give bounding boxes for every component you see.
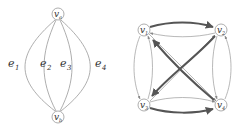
- svg-text:2: 2: [221, 30, 225, 36]
- edge-label-e3: e: [60, 57, 67, 70]
- svg-text:3: 3: [67, 64, 72, 72]
- svg-text:2: 2: [46, 64, 52, 72]
- right-graph: v 1 v 2 v 3 v 4: [134, 23, 231, 113]
- heavy-edge-v3-v4: [150, 108, 213, 113]
- edge-label-e1: e: [8, 57, 15, 70]
- heavy-edge-v1-v2: [150, 23, 213, 28]
- diagram-canvas: v a v b e 1 e 2 e 3 e 4 v: [0, 0, 238, 127]
- heavy-edge-v2-v3: [152, 36, 215, 96]
- heavy-edge-v4-v1: [153, 40, 214, 100]
- left-graph: v a v b e 1 e 2 e 3 e 4: [8, 8, 106, 123]
- edge-label-e2: e: [40, 57, 47, 70]
- edge-label-e4: e: [95, 57, 102, 70]
- node-v1: v 1: [138, 24, 150, 36]
- node-va: v a: [52, 8, 64, 20]
- node-v4: v 4: [215, 99, 227, 111]
- node-v3: v 3: [138, 99, 150, 111]
- svg-text:3: 3: [145, 105, 148, 111]
- svg-text:4: 4: [101, 64, 106, 72]
- node-v2: v 2: [215, 24, 227, 36]
- svg-text:1: 1: [15, 64, 19, 72]
- svg-text:1: 1: [145, 30, 148, 36]
- svg-text:b: b: [59, 117, 62, 123]
- node-vb: v b: [52, 111, 64, 123]
- svg-text:4: 4: [221, 105, 225, 111]
- svg-text:a: a: [59, 14, 62, 20]
